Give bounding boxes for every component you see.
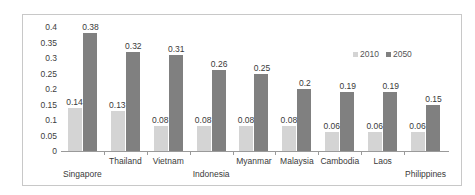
y-axis-tick-label: 0.05 xyxy=(23,131,57,141)
bar-pair xyxy=(361,27,404,151)
bar-2010-indonesia xyxy=(197,126,211,151)
category-label-thailand: Thailand xyxy=(109,156,142,166)
bar-group: 0.080.2 xyxy=(275,27,318,151)
bar-2050-thailand xyxy=(126,52,140,151)
y-axis-tick-label: 0.15 xyxy=(23,100,57,110)
bar-2010-vietnam xyxy=(154,126,168,151)
y-axis-tick-label: 0 xyxy=(23,146,57,156)
bar-2050-indonesia xyxy=(212,70,226,151)
bar-pair xyxy=(318,27,361,151)
category-label-indonesia: Indonesia xyxy=(193,169,230,179)
category-label-myanmar: Myanmar xyxy=(236,156,271,166)
bar-pair xyxy=(61,27,104,151)
bar-2010-thailand xyxy=(111,111,125,151)
y-axis-tick-label: 0.2 xyxy=(23,84,57,94)
bar-2050-vietnam xyxy=(169,55,183,151)
bar-2010-philippines xyxy=(411,132,425,151)
bar-group: 0.130.32 xyxy=(104,27,147,151)
bar-group: 0.060.19 xyxy=(318,27,361,151)
bar-2010-myanmar xyxy=(239,126,253,151)
bar-pair xyxy=(233,27,276,151)
y-axis: 00.050.10.150.20.250.30.350.4 xyxy=(23,27,57,151)
y-axis-tick-label: 0.25 xyxy=(23,69,57,79)
bar-pair xyxy=(104,27,147,151)
bar-group: 0.080.31 xyxy=(147,27,190,151)
bar-group: 0.080.25 xyxy=(233,27,276,151)
category-label-cambodia: Cambodia xyxy=(320,156,359,166)
bar-2010-singapore xyxy=(68,108,82,151)
bar-2010-cambodia xyxy=(325,132,339,151)
bar-2050-singapore xyxy=(83,33,97,151)
bar-2050-cambodia xyxy=(340,92,354,151)
chart-legend: 2010 2050 xyxy=(353,49,412,59)
y-axis-tick-label: 0.1 xyxy=(23,115,57,125)
legend-label-2050: 2050 xyxy=(393,49,412,59)
bar-2050-philippines xyxy=(426,105,440,152)
y-axis-tick-label: 0.4 xyxy=(23,22,57,32)
chart-container: 00.050.10.150.20.250.30.350.4 0.140.380.… xyxy=(22,14,462,186)
legend-swatch-icon-2050 xyxy=(386,52,391,57)
bar-pair xyxy=(404,27,447,151)
category-label-philippines: Philippines xyxy=(405,169,446,179)
bar-2050-laos xyxy=(383,92,397,151)
x-axis-baseline xyxy=(61,151,449,152)
bar-group: 0.060.19 xyxy=(361,27,404,151)
plot-area: 0.140.380.130.320.080.310.080.260.080.25… xyxy=(61,27,447,151)
category-label-singapore: Singapore xyxy=(63,169,102,179)
bar-group: 0.060.15 xyxy=(404,27,447,151)
bar-group: 0.080.26 xyxy=(190,27,233,151)
legend-swatch-icon-2010 xyxy=(353,52,358,57)
legend-item-2010: 2010 xyxy=(353,49,379,59)
bar-2010-laos xyxy=(368,132,382,151)
category-label-vietnam: Vietnam xyxy=(153,156,184,166)
bar-2050-myanmar xyxy=(254,74,268,152)
y-axis-tick-label: 0.35 xyxy=(23,38,57,48)
bar-pair xyxy=(275,27,318,151)
y-axis-tick-label: 0.3 xyxy=(23,53,57,63)
bar-2050-malaysia xyxy=(297,89,311,151)
bar-2010-malaysia xyxy=(282,126,296,151)
legend-item-2050: 2050 xyxy=(386,49,412,59)
legend-label-2010: 2010 xyxy=(360,49,379,59)
category-label-malaysia: Malaysia xyxy=(280,156,314,166)
bar-pair xyxy=(147,27,190,151)
bar-pair xyxy=(190,27,233,151)
bar-group: 0.140.38 xyxy=(61,27,104,151)
x-axis-category-labels: SingaporeThailandVietnamIndonesiaMyanmar… xyxy=(61,153,447,187)
category-label-laos: Laos xyxy=(373,156,391,166)
